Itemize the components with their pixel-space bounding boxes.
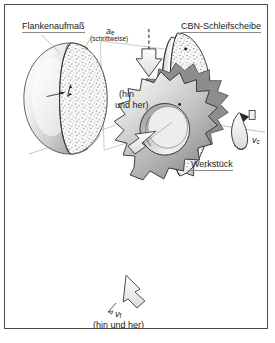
label-workpiece: Werkstück	[191, 160, 233, 171]
cutting-speed-subscript-c: c	[257, 138, 260, 145]
label-cutting-speed: vc	[252, 136, 260, 146]
detail-wheel-tip	[24, 35, 107, 154]
down-arrow-icon	[136, 29, 162, 77]
feed-subscript-f: f	[120, 312, 122, 319]
label-feed-note: (hin und her)	[93, 321, 144, 329]
label-cbn-grinding-wheel: CBN-Schleifscheibe	[181, 22, 261, 33]
label-oscillation-line2: und her)	[115, 101, 149, 110]
label-infeed-note: (schrittweise)	[90, 36, 128, 43]
label-oscillation-line1: (hin	[119, 90, 134, 99]
label-feed-speed: vf	[115, 310, 121, 320]
figure-frame: Flankenaufmaß ae (schrittweise) CBN-Schl…	[4, 4, 268, 329]
label-flankenaufmass: Flankenaufmaß	[22, 22, 85, 33]
